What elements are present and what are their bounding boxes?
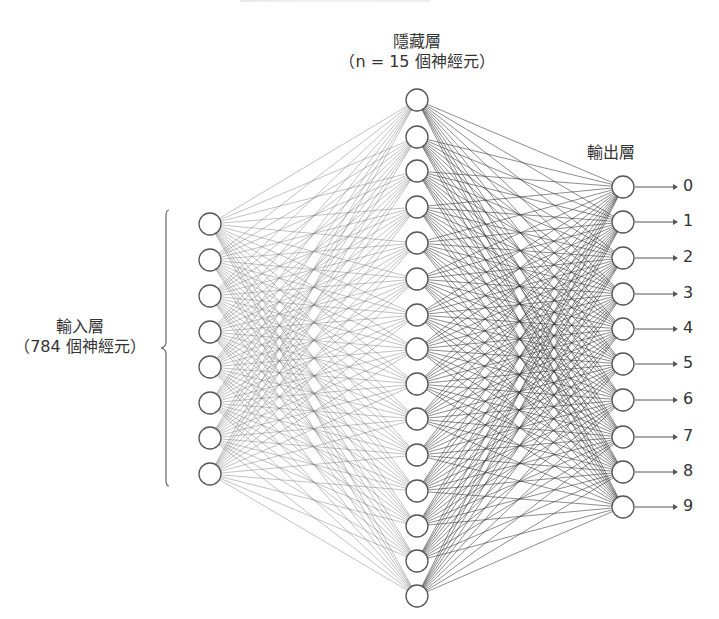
input-node — [199, 213, 221, 235]
output-node — [612, 353, 634, 375]
hidden-layer-subtitle: （n = 15 個神經元） — [317, 52, 517, 72]
input-node — [199, 427, 221, 449]
input-node — [199, 249, 221, 271]
output-node — [612, 211, 634, 233]
hidden-node — [406, 126, 428, 148]
output-node — [612, 496, 634, 518]
output-node — [612, 461, 634, 483]
output-digit-label: 8 — [683, 462, 693, 480]
hidden-layer-title: 隱藏層 — [317, 32, 517, 52]
hidden-node — [406, 515, 428, 537]
hidden-node — [406, 408, 428, 430]
output-node — [612, 247, 634, 269]
hidden-node — [406, 268, 428, 290]
output-layer-nodes — [612, 176, 634, 518]
input-node — [199, 392, 221, 414]
input-layer-label: 輸入層 （784 個神經元） — [0, 317, 160, 357]
output-layer-label: 輸出層 — [571, 143, 651, 163]
output-digit-label: 2 — [683, 248, 693, 266]
hidden-node — [406, 232, 428, 254]
input-node — [199, 321, 221, 343]
edges-input-to-hidden — [210, 100, 417, 596]
output-digit-label: 9 — [683, 497, 693, 515]
hidden-node — [406, 480, 428, 502]
output-digit-label: 6 — [683, 390, 693, 408]
input-node — [199, 463, 221, 485]
input-node — [199, 285, 221, 307]
hidden-node — [406, 444, 428, 466]
hidden-node — [406, 585, 428, 607]
output-digit-label: 1 — [683, 212, 693, 230]
input-layer-nodes — [199, 213, 221, 485]
hidden-node — [406, 304, 428, 326]
hidden-layer-nodes — [406, 89, 428, 607]
output-digit-label: 3 — [683, 284, 693, 302]
output-node — [612, 283, 634, 305]
input-layer-subtitle: （784 個神經元） — [0, 337, 160, 357]
neural-network-diagram — [0, 0, 719, 619]
output-digit-label: 0 — [683, 177, 693, 195]
hidden-node — [406, 160, 428, 182]
hidden-node — [406, 338, 428, 360]
input-layer-title: 輸入層 — [0, 317, 160, 337]
output-layer-title: 輸出層 — [571, 143, 651, 163]
edges-hidden-to-output — [417, 100, 623, 596]
input-node — [199, 356, 221, 378]
output-digit-label: 5 — [683, 354, 693, 372]
input-layer-brace — [161, 210, 169, 486]
hidden-layer-label: 隱藏層 （n = 15 個神經元） — [317, 32, 517, 72]
hidden-node — [406, 550, 428, 572]
hidden-node — [406, 89, 428, 111]
output-arrows — [635, 184, 678, 510]
hidden-node — [406, 196, 428, 218]
output-digit-label: 7 — [683, 427, 693, 445]
output-node — [612, 389, 634, 411]
output-node — [612, 426, 634, 448]
output-node — [612, 318, 634, 340]
output-node — [612, 176, 634, 198]
hidden-node — [406, 373, 428, 395]
output-digit-label: 4 — [683, 319, 693, 337]
